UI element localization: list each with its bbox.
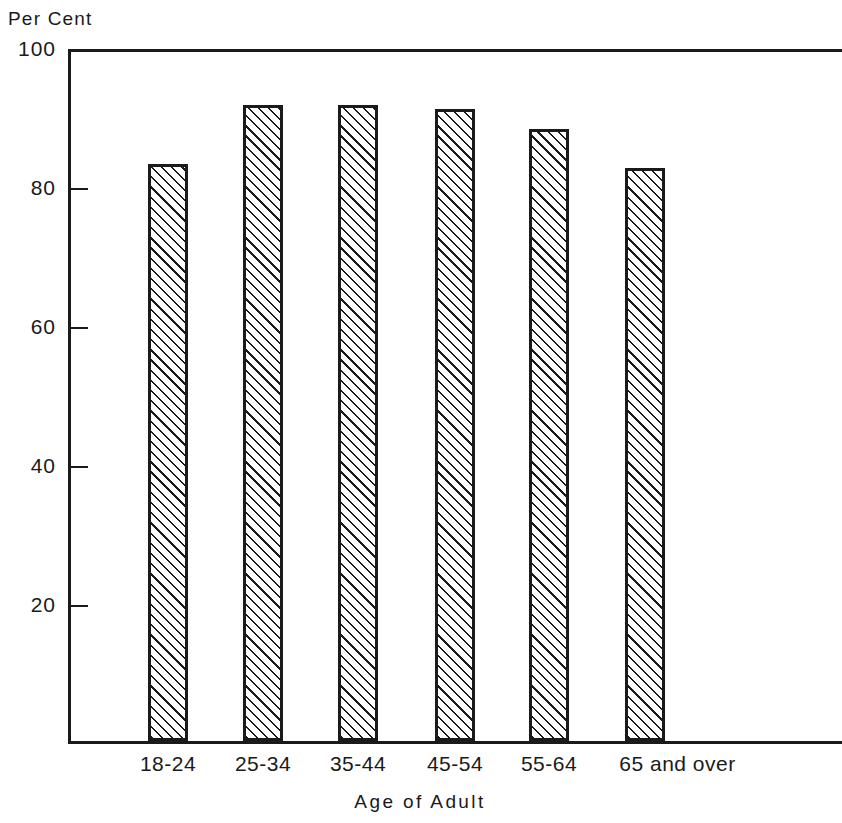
bar (625, 168, 665, 741)
x-tick-label-25-34: 25-34 (213, 752, 313, 776)
bar (243, 105, 283, 741)
y-tick-mark (71, 466, 88, 468)
y-tick-mark (71, 188, 88, 190)
x-tick-label-45-54: 45-54 (405, 752, 505, 776)
y-tick-label: 40 (31, 454, 56, 478)
x-axis-title: Age of Adult (0, 791, 842, 813)
bar (338, 105, 378, 741)
y-axis-unit-caption: Per Cent (8, 8, 93, 30)
bar (529, 129, 569, 741)
y-tick-label: 60 (31, 315, 56, 339)
x-tick-label-18-24: 18-24 (118, 752, 218, 776)
y-axis-line (68, 49, 71, 744)
x-tick-label-65-and-over: 65 and over (565, 752, 790, 776)
plot-frame-top-border (68, 49, 842, 52)
plot-area: 100 80 60 40 20 (68, 49, 842, 744)
y-tick-mark (71, 605, 88, 607)
y-tick-mark (71, 327, 88, 329)
y-tick-label: 20 (31, 593, 56, 617)
y-tick-mark (71, 49, 88, 51)
bar-chart-figure: Per Cent 100 80 60 40 20 (0, 0, 842, 823)
y-tick-label: 80 (31, 176, 56, 200)
bar (435, 109, 475, 742)
x-axis-line (68, 741, 842, 744)
bar (148, 164, 188, 741)
x-tick-label-35-44: 35-44 (308, 752, 408, 776)
y-tick-label: 100 (18, 37, 56, 61)
x-axis-title-text: Age of Adult (354, 791, 485, 813)
